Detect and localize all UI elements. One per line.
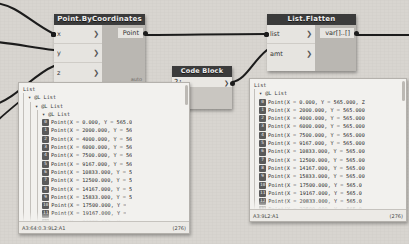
watch-root-label-left: List: [21, 85, 189, 93]
list-item-index: 9: [42, 194, 49, 201]
node-list-flatten[interactable]: List.Flatten list ❯ amt ❯ var[]..[]: [267, 14, 356, 71]
list-item-index: 7: [259, 157, 266, 164]
list-item-index: 10: [42, 202, 49, 209]
list-item-value: Point(X = 14167.000, Y = 5: [51, 185, 132, 193]
list-item-index: 4: [259, 132, 266, 139]
list-item-value: Point(X = 9167.000, Y = 565.000: [268, 139, 365, 147]
input-port-z[interactable]: z ❯: [54, 63, 102, 82]
list-item-index: 7: [42, 177, 49, 184]
list-item[interactable]: 7Point(X = 12500.000, Y = 5: [42, 176, 189, 184]
list-item-value: Point(X = 9167.000, Y = 56: [51, 160, 132, 168]
watch-level-2-left[interactable]: ▾ @L List ▾ @L List 0Point(X = 0.000, Y …: [28, 102, 189, 221]
list-item-value: Point(X = 14167.000, Y = 565.00: [268, 164, 365, 172]
wire-point-to-list: [145, 34, 267, 35]
list-item-index: 2: [259, 115, 266, 122]
port-connector-amt[interactable]: [264, 32, 269, 37]
input-port-amt-label: amt: [270, 50, 283, 58]
list-item[interactable]: 0Point(X = 0.000, Y = 565.000, Z: [259, 98, 406, 106]
watch-level-1-right[interactable]: ▾ @L List 0Point(X = 0.000, Y = 565.000,…: [252, 89, 406, 209]
chevron-right-icon: ❯: [306, 50, 312, 58]
watch-footer-left-count: (276): [173, 225, 186, 231]
input-port-x-label: x: [57, 30, 61, 38]
list-item[interactable]: 4Point(X = 7500.000, Y = 56: [42, 151, 189, 159]
list-item-value: Point(X = 2000.000, Y = 56: [51, 126, 132, 134]
chevron-right-icon: ❯: [93, 49, 99, 57]
list-item[interactable]: 5Point(X = 9167.000, Y = 565.000: [259, 139, 406, 147]
output-port-var[interactable]: var[]..[]: [320, 28, 354, 38]
input-port-list[interactable]: list ❯: [267, 25, 315, 44]
list-item[interactable]: 8Point(X = 14167.000, Y = 565.00: [259, 164, 406, 172]
input-port-y-label: y: [57, 49, 61, 57]
list-item-index: 0: [42, 119, 49, 126]
node-title-point-bycoordinates: Point.ByCoordinates: [54, 14, 145, 25]
list-item[interactable]: 7Point(X = 12500.000, Y = 565.00: [259, 156, 406, 164]
port-connector-z[interactable]: [51, 32, 56, 37]
list-item-index: 1: [259, 107, 266, 114]
list-item[interactable]: 10Point(X = 17500.000, Y =: [42, 201, 189, 209]
node-title-list-flatten: List.Flatten: [267, 14, 356, 25]
list-item[interactable]: 0Point(X = 0.000, Y = 565.0: [42, 118, 189, 126]
wire-in-x: [0, 3, 54, 34]
watch-panel-right[interactable]: List ▾ @L List 0Point(X = 0.000, Y = 565…: [249, 78, 407, 222]
watch-panel-right-list[interactable]: List ▾ @L List 0Point(X = 0.000, Y = 565…: [250, 79, 406, 209]
list-item-value: Point(X = 17500.000, Y =: [51, 201, 126, 209]
list-item-index: 11: [259, 190, 266, 197]
list-item-index: 6: [42, 169, 49, 176]
dynamo-graph-canvas[interactable]: to List.Flatten list input --> to amt in…: [0, 0, 409, 244]
list-item[interactable]: 9Point(X = 15833.000, Y = 5: [42, 193, 189, 201]
port-connector-point-out[interactable]: [143, 31, 148, 36]
list-item-value: Point(X = 4000.000, Y = 565.000: [268, 114, 365, 122]
list-item[interactable]: 5Point(X = 9167.000, Y = 56: [42, 160, 189, 168]
list-item[interactable]: 3Point(X = 6000.000, Y = 565.000: [259, 122, 406, 130]
watch-panel-left-footer: A3:64:0.3:9L2:A1 (276): [19, 221, 189, 233]
port-connector-flatten-out[interactable]: [354, 31, 359, 36]
list-item[interactable]: 6Point(X = 10833.000, Y = 5: [42, 168, 189, 176]
watch-level-1-left[interactable]: ▾ @L List ▾ @L List ▾ @L List 0Point(X =…: [21, 93, 189, 221]
watch-level-3-label-left: ▾ @L List: [42, 110, 189, 118]
list-item-index: 2: [42, 136, 49, 143]
node-point-bycoordinates[interactable]: Point.ByCoordinates x ❯ y ❯ z ❯: [54, 14, 145, 83]
port-connector-codeblock-out[interactable]: [230, 81, 235, 86]
list-item-value: Point(X = 0.000, Y = 565.0: [51, 118, 132, 126]
input-port-y[interactable]: y ❯: [54, 44, 102, 63]
chevron-right-icon: ❯: [93, 30, 99, 38]
list-item[interactable]: 1Point(X = 2000.000, Y = 565.000: [259, 106, 406, 114]
list-item-value: Point(X = 10833.000, Y = 5: [51, 168, 132, 176]
list-fade-overlay-left: [19, 212, 189, 221]
list-item[interactable]: 10Point(X = 17500.000, Y = 565.0: [259, 181, 406, 189]
list-item-index: 10: [259, 182, 266, 189]
list-item-index: 3: [42, 144, 49, 151]
watch-items-right: 0Point(X = 0.000, Y = 565.000, Z1Point(X…: [259, 98, 406, 209]
list-item[interactable]: 8Point(X = 14167.000, Y = 5: [42, 185, 189, 193]
list-item-index: 9: [259, 173, 266, 180]
watch-panel-left[interactable]: List ▾ @L List ▾ @L List ▾ @L List 0Poin…: [18, 82, 190, 234]
watch-panel-left-list[interactable]: List ▾ @L List ▾ @L List ▾ @L List 0Poin…: [19, 83, 189, 221]
list-item-index: 1: [42, 127, 49, 134]
list-item[interactable]: 9Point(X = 15833.000, Y = 565.00: [259, 172, 406, 180]
list-item-index: 8: [42, 186, 49, 193]
watch-level-1-label-right: ▾ @L List: [259, 89, 406, 97]
list-item-index: 5: [259, 140, 266, 147]
chevron-right-icon: ❯: [306, 30, 312, 38]
list-item-value: Point(X = 12500.000, Y = 5: [51, 176, 132, 184]
list-item[interactable]: 1Point(X = 2000.000, Y = 56: [42, 126, 189, 134]
input-port-x[interactable]: x ❯: [54, 25, 102, 44]
watch-level-3-left[interactable]: ▾ @L List 0Point(X = 0.000, Y = 565.01Po…: [35, 110, 189, 221]
list-item-index: 8: [259, 165, 266, 172]
input-port-amt[interactable]: amt ❯: [267, 44, 315, 63]
list-item-value: Point(X = 4000.000, Y = 56: [51, 135, 132, 143]
watch-items-left: 0Point(X = 0.000, Y = 565.01Point(X = 20…: [42, 118, 189, 221]
list-item[interactable]: 11Point(X = 19167.000, Y = 565.0: [259, 189, 406, 197]
list-item[interactable]: 2Point(X = 4000.000, Y = 565.000: [259, 114, 406, 122]
list-item-value: Point(X = 15833.000, Y = 5: [51, 193, 132, 201]
list-item-value: Point(X = 15833.000, Y = 565.00: [268, 172, 365, 180]
input-port-list-label: list: [270, 30, 280, 38]
output-port-point[interactable]: Point: [118, 28, 143, 38]
list-item[interactable]: 6Point(X = 10833.000, Y = 565.00: [259, 147, 406, 155]
list-item[interactable]: 4Point(X = 7500.000, Y = 565.000: [259, 131, 406, 139]
list-item-value: Point(X = 0.000, Y = 565.000, Z: [268, 98, 365, 106]
list-item-index: 5: [42, 161, 49, 168]
watch-footer-left-text: A3:64:0.3:9L2:A1: [22, 225, 65, 231]
list-item[interactable]: 3Point(X = 6000.000, Y = 56: [42, 143, 189, 151]
list-item[interactable]: 2Point(X = 4000.000, Y = 56: [42, 135, 189, 143]
